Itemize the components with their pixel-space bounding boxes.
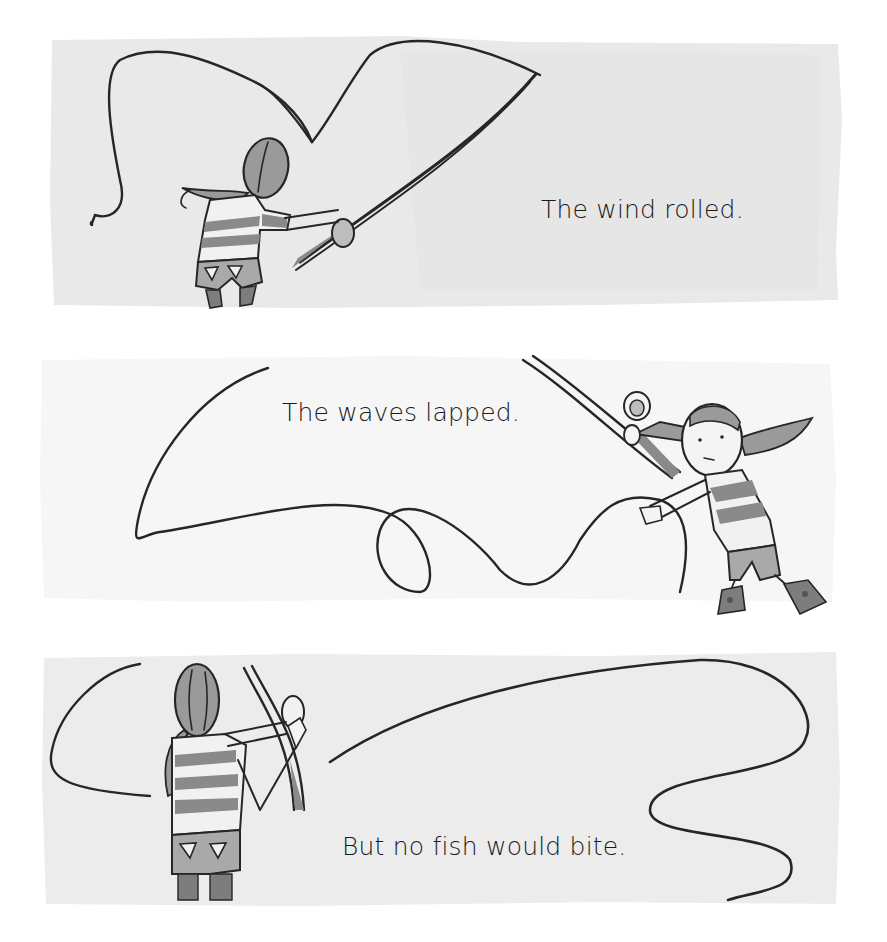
panel-3-wash (42, 652, 840, 906)
caption-3: But no fish would bite. (342, 834, 627, 859)
caption-1: The wind rolled. (541, 197, 744, 222)
caption-2: The waves lapped. (282, 400, 520, 425)
panel-2-artwork (0, 330, 887, 630)
illustration-panel-2: The waves lapped. (0, 330, 887, 630)
illustration-panel-3: But no fish would bite. (0, 630, 887, 942)
illustration-panel-1: The wind rolled. (0, 0, 887, 320)
panel-3-artwork (0, 630, 887, 942)
panel-1-artwork (0, 0, 887, 320)
